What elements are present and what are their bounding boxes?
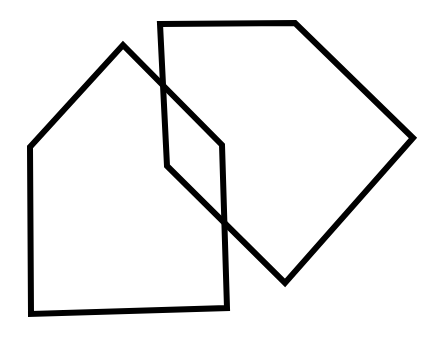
polygons-svg: [0, 0, 441, 340]
figure-canvas: [0, 0, 441, 340]
